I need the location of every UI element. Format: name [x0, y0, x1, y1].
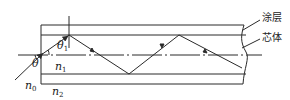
coating-label: 涂层 — [262, 13, 282, 23]
core-label: 芯体 — [262, 33, 282, 43]
angle-theta1-arc — [48, 50, 49, 55]
theta-label: θ — [32, 58, 39, 69]
n2-label: n2 — [52, 86, 64, 99]
core-leader — [242, 39, 260, 48]
n1-label: n1 — [55, 61, 67, 74]
ray-segment — [179, 35, 242, 68]
coating-leader — [243, 20, 260, 30]
n0-label: n0 — [25, 80, 37, 93]
theta1-label: θ1 — [57, 40, 68, 53]
fiber-diagram — [0, 0, 290, 100]
